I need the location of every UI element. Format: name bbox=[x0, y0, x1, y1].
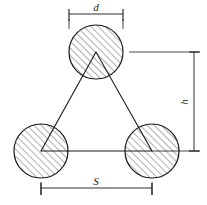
technical-diagram: d h S bbox=[0, 0, 207, 205]
circles-group bbox=[14, 25, 179, 178]
dimension-label-diameter: d bbox=[93, 1, 99, 13]
dimension-label-height: h bbox=[178, 99, 190, 105]
diagram-canvas: d h S bbox=[0, 0, 207, 205]
dimension-diameter: d bbox=[69, 1, 123, 21]
dimension-spacing: S bbox=[41, 175, 152, 195]
dimension-label-spacing: S bbox=[93, 175, 99, 187]
dimension-height: h bbox=[178, 52, 200, 151]
